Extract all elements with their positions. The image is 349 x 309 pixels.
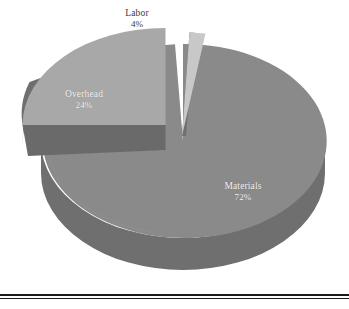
pie-chart-graphic bbox=[0, 0, 349, 309]
bottom-divider-thick-line bbox=[0, 294, 349, 296]
slice-overhead-top bbox=[22, 28, 165, 125]
pie-chart-figure: Materials 72% Overhead 24% Labor 4% bbox=[0, 0, 349, 309]
slice-overhead bbox=[22, 28, 166, 156]
bottom-divider bbox=[0, 294, 349, 300]
bottom-divider-thin-line bbox=[0, 298, 349, 299]
